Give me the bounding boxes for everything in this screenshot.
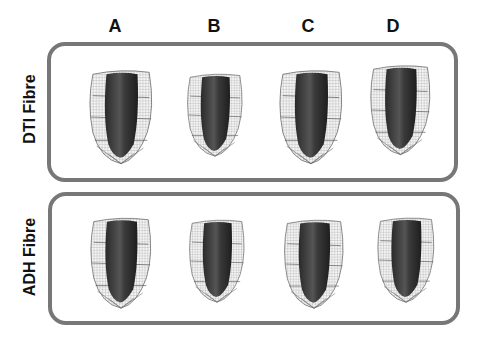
heart-model-dti-b <box>185 70 245 160</box>
row-label-adh-fibre: ADH Fibre <box>21 197 39 317</box>
column-label-b: B <box>199 16 229 37</box>
heart-model-dti-c <box>277 68 345 166</box>
heart-model-adh-d <box>374 216 438 304</box>
row-label-dti-fibre: DTI Fibre <box>21 49 39 169</box>
heart-model-adh-c <box>281 218 347 310</box>
heart-model-dti-a <box>87 67 155 167</box>
column-label-c: C <box>293 16 323 37</box>
heart-model-adh-b <box>187 216 247 306</box>
column-label-d: D <box>378 16 408 37</box>
heart-model-dti-d <box>368 62 433 158</box>
column-label-a: A <box>100 16 130 37</box>
heart-model-adh-a <box>87 216 155 310</box>
